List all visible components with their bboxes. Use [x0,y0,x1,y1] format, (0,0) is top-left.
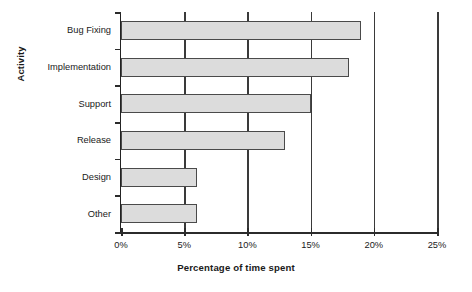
y-axis-tick-label: Bug Fixing [67,24,111,36]
bar [121,168,197,187]
y-axis-tick-labels: Bug FixingImplementationSupportReleaseDe… [30,12,116,232]
bar [121,94,311,113]
x-axis-tick-label: 25% [417,240,457,250]
bar-chart: Activity Bug FixingImplementationSupport… [0,0,472,292]
y-axis-title: Activity [14,24,28,104]
x-axis-tick-mark [437,228,439,236]
x-axis-line [119,232,438,234]
y-axis-tick-mark [115,195,121,197]
y-axis-tick-mark [115,85,121,87]
bar [121,21,361,40]
gridline-15 [311,12,313,232]
x-axis-tick-label: 15% [291,240,331,250]
x-axis-tick-mark [247,228,249,236]
x-axis-tick-mark [184,228,186,236]
x-axis-tick-label: 5% [164,240,204,250]
y-axis-tick-label: Implementation [47,61,111,73]
y-axis-tick-mark [115,49,121,51]
bar [121,204,197,223]
x-axis-tick-label: 10% [227,240,267,250]
y-axis-tick-mark [115,12,121,14]
gridline-10 [247,12,249,232]
gridline-5 [184,12,186,232]
y-axis-tick-label: Support [78,98,111,110]
y-axis-tick-mark [115,122,121,124]
x-axis-tick-mark [121,228,123,236]
x-axis-tick-label: 0% [101,240,141,250]
plot-area [121,12,437,232]
bar [121,58,349,77]
y-axis-tick-label: Other [88,208,111,220]
gridline-25 [437,12,439,232]
y-axis-tick-mark [115,159,121,161]
x-axis-tick-label: 20% [354,240,394,250]
gridline-20 [374,12,376,232]
y-axis-tick-label: Design [82,171,111,183]
bar [121,131,285,150]
x-axis-tick-mark [374,228,376,236]
y-axis-tick-label: Release [77,134,111,146]
x-axis-title: Percentage of time spent [0,262,472,273]
x-axis-tick-mark [311,228,313,236]
